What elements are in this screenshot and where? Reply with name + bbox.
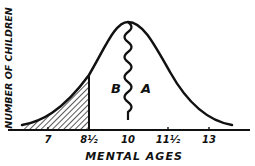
wavy-divider — [125, 22, 132, 120]
tick-label-7: 7 — [45, 134, 52, 145]
x-axis-title: MENTAL AGES — [85, 150, 183, 163]
region-label-a: A — [140, 81, 151, 96]
chart-canvas: 7 8½ 10 11½ 13 B A MENTAL AGES NUMBER OF… — [0, 0, 255, 166]
y-axis-title: NUMBER OF CHILDREN — [3, 7, 14, 129]
tick-label-13: 13 — [202, 134, 216, 145]
region-label-b: B — [111, 81, 121, 96]
tick-label-8-5: 8½ — [80, 134, 98, 145]
tick-label-10: 10 — [121, 134, 135, 145]
bell-curve-chart: 7 8½ 10 11½ 13 B A MENTAL AGES NUMBER OF… — [0, 0, 255, 166]
tick-label-11-5: 11½ — [156, 134, 181, 145]
